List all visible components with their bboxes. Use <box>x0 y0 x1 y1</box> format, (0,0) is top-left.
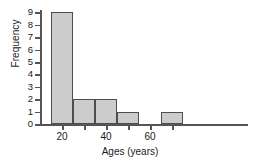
y-tick-label-0: 0 <box>21 119 33 129</box>
y-tick-label-4-wrap: 4 <box>20 69 33 79</box>
x-tick-70 <box>172 125 174 130</box>
bar-45-55 <box>117 112 139 124</box>
y-tick-label-6-wrap: 6 <box>20 45 33 55</box>
y-tick-label-9-wrap: 9 <box>20 7 33 17</box>
x-axis-line <box>40 124 248 126</box>
y-tick-8 <box>35 25 40 27</box>
bar-25-35 <box>73 99 95 124</box>
y-tick-label-5-wrap: 5 <box>20 57 33 67</box>
x-tick-50 <box>128 125 130 130</box>
y-tick-label-7: 7 <box>21 32 33 42</box>
bar-65-75 <box>161 112 183 124</box>
x-axis-title: Ages (years) <box>40 146 220 157</box>
y-tick-4 <box>35 74 40 76</box>
y-tick-6 <box>35 50 40 52</box>
x-tick-label-20: 20 <box>47 131 77 142</box>
y-tick-3 <box>35 87 40 89</box>
y-tick-label-8: 8 <box>21 20 33 30</box>
y-tick-label-1: 1 <box>21 107 33 117</box>
y-axis-title: Frequency <box>10 1 21 87</box>
x-tick-30 <box>84 125 86 130</box>
x-tick-40 <box>106 125 108 130</box>
y-tick-label-1-wrap: 1 <box>20 107 33 117</box>
y-tick-label-7-wrap: 7 <box>20 32 33 42</box>
y-tick-label-3: 3 <box>21 82 33 92</box>
y-tick-label-0-wrap: 0 <box>20 119 33 129</box>
y-tick-5 <box>35 62 40 64</box>
y-tick-9 <box>35 12 40 14</box>
y-tick-label-4: 4 <box>21 69 33 79</box>
histogram-chart: Frequency 0 1 2 3 4 5 6 7 8 9 20 40 60 A… <box>0 0 257 168</box>
y-axis-line <box>40 10 42 125</box>
x-tick-60 <box>150 125 152 130</box>
y-tick-7 <box>35 37 40 39</box>
y-tick-label-5: 5 <box>21 57 33 67</box>
bar-15-25 <box>51 12 73 124</box>
y-tick-label-9: 9 <box>21 7 33 17</box>
x-tick-20 <box>62 125 64 130</box>
bar-35-45 <box>95 99 117 124</box>
x-tick-label-60: 60 <box>135 131 165 142</box>
y-tick-label-3-wrap: 3 <box>20 82 33 92</box>
y-tick-1 <box>35 112 40 114</box>
x-tick-label-40: 40 <box>91 131 121 142</box>
y-tick-label-6: 6 <box>21 45 33 55</box>
y-tick-label-2-wrap: 2 <box>20 94 33 104</box>
y-tick-label-8-wrap: 8 <box>20 20 33 30</box>
y-tick-0 <box>35 124 40 126</box>
y-tick-2 <box>35 99 40 101</box>
y-tick-label-2: 2 <box>21 94 33 104</box>
